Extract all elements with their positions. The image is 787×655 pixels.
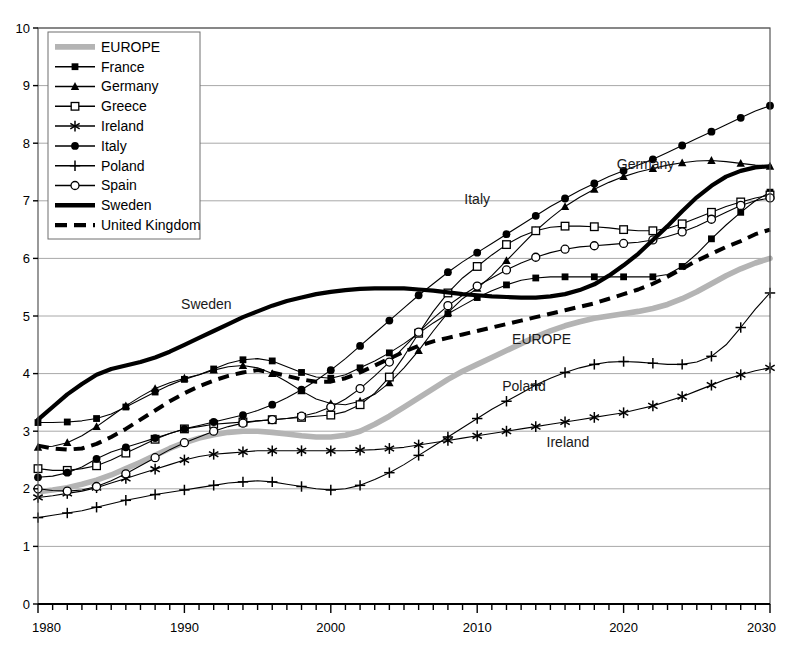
marker-open-square: [356, 401, 364, 409]
legend-item-label: Germany: [101, 78, 159, 94]
chart-stage: 012345678910198019902000201020202030 Swe…: [0, 0, 787, 655]
marker-open-circle: [590, 242, 598, 250]
legend[interactable]: EUROPEFranceGermanyGreeceIrelandItalyPol…: [48, 32, 201, 239]
legend-item-label: United Kingdom: [101, 217, 201, 233]
marker-open-square: [71, 103, 79, 111]
marker-filled-circle: [71, 142, 79, 150]
marker-filled-circle: [415, 291, 423, 299]
x-tick-label: 2010: [463, 620, 492, 635]
marker-plus: [121, 495, 131, 505]
marker-open-square: [620, 226, 628, 234]
marker-open-circle: [180, 439, 188, 447]
marker-filled-circle: [708, 128, 716, 136]
marker-plus: [179, 485, 189, 495]
marker-open-circle: [502, 266, 510, 274]
marker-open-circle: [444, 302, 452, 310]
marker-plus: [501, 396, 511, 406]
x-tick-label: 2000: [316, 620, 345, 635]
marker-open-circle: [122, 470, 130, 478]
legend-item-label: Italy: [101, 138, 127, 154]
series-line: [38, 368, 770, 498]
marker-open-circle: [239, 419, 247, 427]
marker-plus: [91, 502, 101, 512]
series-ireland: [33, 362, 774, 502]
marker-filled-circle: [239, 411, 247, 419]
marker-filled-circle: [181, 425, 189, 433]
marker-plus: [618, 356, 628, 366]
y-tick-label: 9: [23, 78, 30, 93]
marker-filled-circle: [268, 401, 276, 409]
y-tick-label: 4: [23, 366, 30, 381]
legend-item-label: Spain: [101, 177, 137, 193]
x-tick-label: 1990: [170, 620, 199, 635]
marker-plus: [706, 351, 716, 361]
marker-filled-circle: [737, 114, 745, 122]
marker-filled-circle: [532, 212, 540, 220]
marker-plus: [238, 477, 248, 487]
marker-filled-circle: [93, 455, 101, 463]
marker-open-square: [473, 263, 481, 271]
series-united-kingdom: [38, 230, 770, 450]
x-tick-label: 2020: [609, 620, 638, 635]
marker-plus: [62, 508, 72, 518]
marker-filled-circle: [356, 342, 364, 350]
marker-asterisk: [180, 455, 189, 466]
x-tick-label: 2030: [747, 620, 776, 635]
marker-filled-triangle: [561, 202, 569, 210]
marker-open-circle: [561, 245, 569, 253]
marker-filled-square: [72, 63, 79, 70]
marker-open-circle: [737, 201, 745, 209]
annotation-germany: Germany: [617, 156, 675, 172]
marker-open-circle: [151, 454, 159, 462]
marker-filled-circle: [561, 195, 569, 203]
marker-filled-square: [708, 235, 715, 242]
marker-filled-circle: [151, 434, 159, 442]
y-tick-label: 7: [23, 193, 30, 208]
marker-plus: [384, 467, 394, 477]
marker-open-circle: [327, 403, 335, 411]
marker-filled-circle: [327, 366, 335, 374]
marker-asterisk: [677, 391, 686, 402]
marker-filled-square: [620, 273, 627, 280]
marker-filled-circle: [298, 386, 306, 394]
series-europe: [38, 258, 770, 491]
marker-plus: [413, 450, 423, 460]
marker-open-square: [503, 241, 511, 249]
marker-open-circle: [356, 385, 364, 393]
marker-filled-triangle: [92, 422, 100, 430]
annotation-poland: Poland: [502, 378, 546, 394]
marker-open-square: [93, 462, 101, 470]
marker-filled-triangle: [63, 438, 71, 446]
y-tick-label: 2: [23, 481, 30, 496]
y-tick-label: 3: [23, 424, 30, 439]
marker-plus: [589, 359, 599, 369]
series-line: [38, 230, 770, 450]
marker-filled-circle: [444, 268, 452, 276]
marker-open-circle: [268, 416, 276, 424]
marker-filled-circle: [473, 249, 481, 257]
marker-plus: [677, 359, 687, 369]
marker-filled-triangle: [707, 156, 715, 164]
marker-asterisk: [736, 369, 745, 380]
marker-filled-circle: [678, 142, 686, 150]
marker-asterisk: [648, 400, 657, 411]
marker-open-circle: [707, 215, 715, 223]
marker-filled-square: [503, 281, 510, 288]
marker-asterisk: [707, 380, 716, 391]
y-tick-label: 1: [23, 539, 30, 554]
marker-open-square: [327, 411, 335, 419]
marker-plus: [296, 481, 306, 491]
marker-asterisk: [150, 464, 159, 475]
y-tick-label: 0: [23, 597, 30, 612]
annotation-italy: Italy: [464, 191, 490, 207]
marker-open-circle: [71, 182, 79, 190]
marker-filled-circle: [590, 180, 598, 188]
marker-plus: [560, 367, 570, 377]
marker-filled-square: [386, 349, 393, 356]
annotation-sweden: Sweden: [181, 296, 232, 312]
y-tick-label: 5: [23, 309, 30, 324]
legend-item-label: Greece: [101, 98, 147, 114]
y-tick-label: 6: [23, 251, 30, 266]
marker-filled-circle: [63, 469, 71, 477]
series-line: [38, 258, 770, 491]
